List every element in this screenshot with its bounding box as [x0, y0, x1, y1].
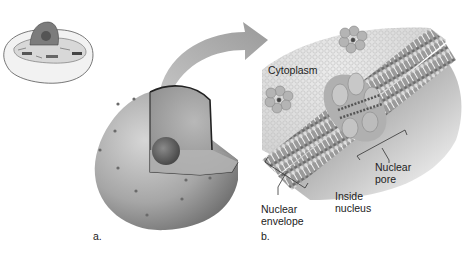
- label-inside-nucleus-line1: Inside: [335, 190, 363, 202]
- label-nuclear-pore-line2: pore: [375, 173, 396, 185]
- zoom-arrow: [160, 22, 268, 95]
- label-nuclear-pore-line1: Nuclear: [375, 161, 411, 173]
- nucleus-cutaway: [95, 86, 238, 230]
- label-cytoplasm: Cytoplasm: [268, 64, 318, 76]
- panel-b-label: b.: [261, 230, 270, 242]
- label-inside-nucleus-line2: nucleus: [335, 202, 371, 214]
- figure-artwork: [0, 0, 466, 254]
- nucleus-figure: Cytoplasm Nuclear pore Inside nucleus Nu…: [0, 0, 466, 254]
- label-nuclear-envelope-line1: Nuclear: [261, 203, 297, 215]
- animal-cell-thumbnail: [4, 22, 93, 83]
- nuclear-envelope-closeup: [262, 26, 461, 200]
- panel-a-label: a.: [93, 230, 102, 242]
- label-nuclear-envelope-line2: envelope: [261, 215, 304, 227]
